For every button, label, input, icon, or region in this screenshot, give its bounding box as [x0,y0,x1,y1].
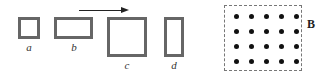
field-dot-icon [234,29,239,34]
field-dot-icon [234,59,239,64]
motion-arrow-line [79,10,123,11]
field-dot-icon [264,59,269,64]
field-dot-icon [249,14,254,19]
loop-label-b: b [64,41,84,53]
loop-a [18,17,40,39]
field-dot-icon [294,59,299,64]
loop-b [54,17,93,39]
magnetic-field-region [224,5,302,71]
field-dot-icon [294,14,299,19]
field-dot-icon [294,44,299,49]
loop-label-c: c [117,59,137,71]
field-dot-icon [279,29,284,34]
field-dot-icon [279,59,284,64]
magnetic-field-label: B [307,17,315,32]
loop-c [107,17,147,57]
field-dot-icon [264,29,269,34]
field-dot-icon [279,44,284,49]
field-dot-icon [264,44,269,49]
field-dot-icon [294,29,299,34]
loop-label-a: a [19,41,39,53]
field-dot-icon [279,14,284,19]
loop-label-d: d [164,59,184,71]
motion-arrow-head-icon [121,7,129,13]
field-dot-icon [249,59,254,64]
field-dot-icon [249,44,254,49]
field-dot-icon [264,14,269,19]
loop-d [164,17,184,57]
field-dot-icon [249,29,254,34]
field-dot-icon [234,44,239,49]
field-dot-icon [234,14,239,19]
